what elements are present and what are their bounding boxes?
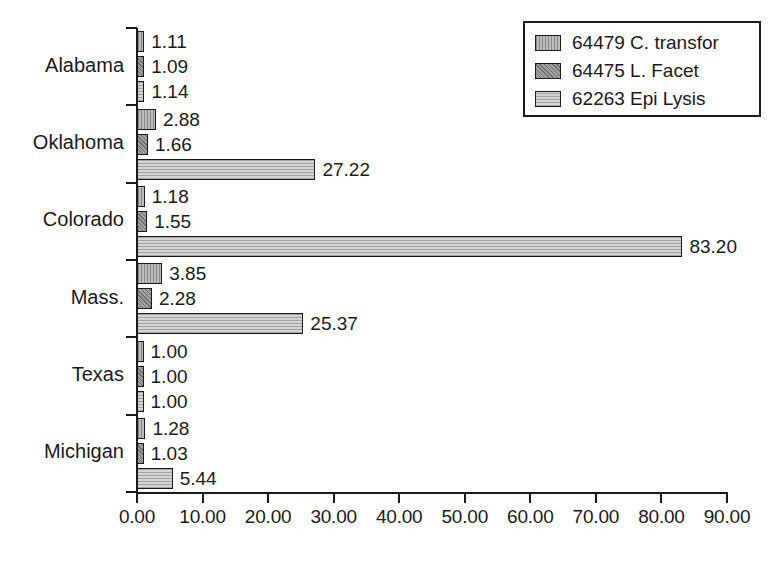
x-axis-tick — [202, 494, 204, 503]
bar-value-label: 2.88 — [163, 109, 200, 130]
bar — [137, 391, 144, 412]
bar-value-label: 25.37 — [310, 313, 358, 334]
bar — [137, 468, 173, 489]
y-axis-category-label: Colorado — [2, 208, 124, 231]
x-axis-tick — [529, 494, 531, 503]
y-axis-category-label: Michigan — [2, 440, 124, 463]
legend-swatch-icon — [535, 35, 561, 51]
bar-value-label: 1.00 — [151, 341, 188, 362]
legend-item-label: 64479 C. transfor — [572, 32, 719, 54]
bar — [137, 366, 144, 387]
x-axis-tick — [464, 494, 466, 503]
bar-value-label: 1.00 — [151, 366, 188, 387]
bar — [137, 159, 315, 180]
y-axis-tick — [126, 104, 137, 106]
bar — [137, 263, 162, 284]
bar — [137, 418, 145, 439]
bar-chart: AlabamaOklahomaColoradoMass.TexasMichiga… — [0, 0, 774, 568]
x-axis-tick-label: 90.00 — [704, 506, 751, 528]
y-axis-tick — [126, 27, 137, 29]
bar-value-label: 5.44 — [180, 468, 217, 489]
x-axis-tick — [660, 494, 662, 503]
legend-swatch-icon — [535, 63, 561, 79]
bar — [137, 341, 144, 362]
x-axis-tick-label: 10.00 — [179, 506, 226, 528]
bar-value-label: 1.28 — [152, 418, 189, 439]
x-axis-tick-label: 0.00 — [119, 506, 155, 528]
x-axis-tick — [726, 494, 728, 503]
bar-value-label: 2.28 — [159, 288, 196, 309]
x-axis-tick-label: 40.00 — [376, 506, 423, 528]
legend-item[interactable]: 62263 Epi Lysis — [535, 85, 759, 113]
bar — [137, 313, 303, 334]
bar — [137, 134, 148, 155]
bar — [137, 31, 144, 52]
bar-value-label: 1.14 — [151, 81, 188, 102]
bar-value-label: 1.11 — [151, 31, 187, 52]
bar-value-label: 1.66 — [155, 134, 192, 155]
y-axis-category-label: Texas — [2, 363, 124, 386]
bar — [137, 186, 145, 207]
bar — [137, 81, 144, 102]
bar — [137, 211, 147, 232]
legend-item-label: 64475 L. Facet — [572, 60, 699, 82]
bar — [137, 236, 682, 257]
bar-value-label: 1.00 — [151, 391, 188, 412]
chart-legend: 64479 C. transfor64475 L. Facet62263 Epi… — [523, 21, 761, 117]
x-axis-tick-label: 50.00 — [441, 506, 488, 528]
bar-value-label: 27.22 — [322, 159, 370, 180]
x-axis-tick — [595, 494, 597, 503]
y-axis-category-label: Alabama — [2, 54, 124, 77]
y-axis-tick — [126, 414, 137, 416]
y-axis-category-labels: AlabamaOklahomaColoradoMass.TexasMichiga… — [0, 0, 124, 568]
x-axis-tick — [333, 494, 335, 503]
x-axis-tick — [398, 494, 400, 503]
x-axis-line — [136, 492, 728, 494]
bar-value-label: 1.18 — [152, 186, 189, 207]
bar-value-label: 1.55 — [154, 211, 191, 232]
y-axis-tick — [126, 259, 137, 261]
x-axis-tick-label: 60.00 — [507, 506, 554, 528]
bar — [137, 288, 152, 309]
bar — [137, 109, 156, 130]
x-axis-tick — [267, 494, 269, 503]
bar-value-label: 83.20 — [689, 236, 737, 257]
legend-item-label: 62263 Epi Lysis — [572, 88, 705, 110]
y-axis-tick — [126, 182, 137, 184]
legend-item[interactable]: 64475 L. Facet — [535, 57, 759, 85]
legend-swatch-icon — [535, 91, 561, 107]
x-axis-tick-label: 80.00 — [638, 506, 685, 528]
bar-value-label: 1.09 — [151, 56, 188, 77]
x-axis-tick-label: 20.00 — [245, 506, 292, 528]
x-axis-tick-label: 30.00 — [310, 506, 357, 528]
bar-value-label: 3.85 — [169, 263, 206, 284]
x-axis-tick-label: 70.00 — [573, 506, 620, 528]
x-axis-tick — [136, 494, 138, 503]
y-axis-category-label: Oklahoma — [2, 131, 124, 154]
y-axis-category-label: Mass. — [2, 286, 124, 309]
bar — [137, 56, 144, 77]
y-axis-tick — [126, 491, 137, 493]
legend-item[interactable]: 64479 C. transfor — [535, 29, 759, 57]
bar — [137, 443, 144, 464]
bar-value-label: 1.03 — [151, 443, 188, 464]
y-axis-tick — [126, 336, 137, 338]
